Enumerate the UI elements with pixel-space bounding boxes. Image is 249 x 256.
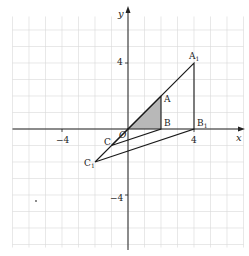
stray-dot [35,200,37,202]
tick-label-x-neg4: −4 [56,135,70,145]
y-axis-arrow-icon [126,6,131,13]
tick-label-y-neg4: −4 [110,193,124,203]
vertex-label-a: A [163,94,171,104]
vertex-label-c: C [104,137,111,147]
vertex-label-c1: C1 [84,158,95,169]
origin-label: O [119,130,127,140]
x-axis-arrow-icon [238,127,245,132]
vertex-label-a1: A1 [188,51,199,62]
vertex-label-b: B [164,118,171,128]
tick-label-x-4: 4 [191,135,197,145]
tick-label-y-4: 4 [117,57,123,67]
y-axis-label: y [117,8,124,19]
vertex-label-b1: B1 [197,118,207,129]
coordinate-plane-diagram: x y −4 4 4 −4 O A B C A1 B1 C1 [0,0,249,256]
x-axis-label: x [236,132,242,143]
